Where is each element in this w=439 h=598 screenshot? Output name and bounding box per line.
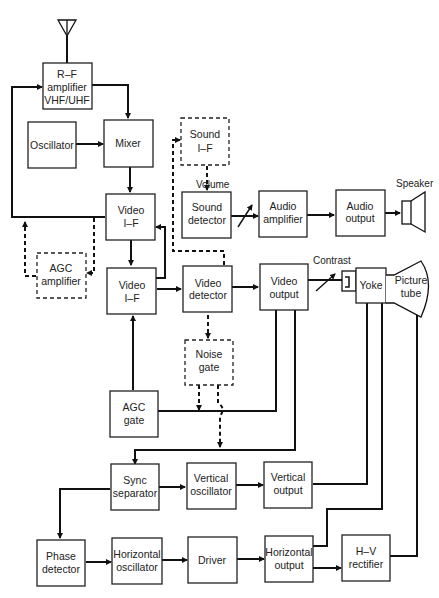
block-vertical-oscillator: Vertical oscillator (187, 463, 236, 509)
block-sync-separator: Sync separator (111, 464, 159, 510)
svg-text:Vertical: Vertical (271, 471, 305, 483)
svg-text:Oscillator: Oscillator (30, 139, 74, 151)
svg-text:detector: detector (189, 289, 227, 301)
block-agc-amplifier: AGC amplifier (37, 253, 86, 298)
speaker-label: Speaker (396, 178, 434, 189)
svg-text:gate: gate (124, 414, 145, 426)
contrast-control-icon (342, 271, 356, 291)
svg-text:Video: Video (271, 275, 298, 287)
picture-tube-icon: Picture tube (386, 261, 429, 317)
svg-text:Horizontal: Horizontal (265, 546, 312, 558)
svg-text:Driver: Driver (198, 554, 227, 566)
block-video-detector: Video detector (183, 266, 232, 312)
svg-text:output: output (274, 559, 303, 571)
svg-text:oscillator: oscillator (190, 485, 232, 497)
svg-text:detector: detector (188, 214, 226, 226)
svg-text:H–V: H–V (356, 545, 376, 557)
svg-text:Mixer: Mixer (115, 137, 141, 149)
svg-text:VHF/UHF: VHF/UHF (44, 94, 90, 106)
svg-text:rectifier: rectifier (349, 558, 384, 570)
svg-text:Video: Video (195, 277, 222, 289)
svg-text:I–F: I–F (197, 142, 212, 154)
svg-text:AGC: AGC (123, 401, 146, 413)
svg-text:amplifier: amplifier (41, 275, 81, 287)
block-video-if-2: Video I–F (107, 268, 156, 314)
svg-text:oscillator: oscillator (116, 561, 158, 573)
svg-text:Video: Video (118, 204, 145, 216)
svg-text:Video: Video (119, 279, 146, 291)
contrast-label: Contrast (313, 255, 351, 266)
svg-text:separator: separator (113, 487, 158, 499)
block-phase-detector: Phase detector (37, 540, 85, 586)
block-audio-amplifier: Audio amplifier (259, 191, 307, 237)
svg-text:AGC: AGC (50, 262, 73, 274)
svg-text:Picture: Picture (395, 274, 428, 286)
svg-text:Yoke: Yoke (360, 279, 383, 291)
antenna-icon (58, 20, 76, 63)
svg-text:output: output (345, 212, 374, 224)
speaker-icon (402, 192, 425, 232)
block-oscillator: Oscillator (28, 122, 76, 168)
block-sound-detector: Sound detector (182, 192, 231, 238)
block-agc-gate: AGC gate (110, 391, 158, 437)
svg-text:amplifier: amplifier (47, 81, 87, 93)
block-yoke: Yoke (356, 268, 386, 303)
svg-text:Sync: Sync (123, 474, 146, 486)
svg-text:Phase: Phase (46, 550, 76, 562)
block-hv-rectifier: H–V rectifier (342, 535, 390, 581)
svg-text:Sound: Sound (190, 128, 221, 140)
block-vertical-output: Vertical output (264, 462, 312, 508)
block-horizontal-output: Horizontal output (265, 536, 313, 582)
svg-text:Audio: Audio (347, 200, 374, 212)
block-driver: Driver (188, 537, 237, 583)
block-horizontal-oscillator: Horizontal oscillator (112, 538, 162, 584)
svg-text:tube: tube (401, 287, 422, 299)
svg-text:output: output (273, 484, 302, 496)
svg-text:R–F: R–F (57, 68, 77, 80)
svg-text:Horizontal: Horizontal (113, 548, 160, 560)
block-noise-gate: Noise gate (185, 340, 233, 385)
volume-label: Volume (196, 179, 230, 190)
svg-text:I–F: I–F (123, 217, 138, 229)
svg-text:I–F: I–F (124, 292, 139, 304)
svg-text:Sound: Sound (192, 201, 223, 213)
tv-receiver-block-diagram: R–F amplifier VHF/UHF Oscillator Mixer S… (0, 0, 439, 598)
svg-text:gate: gate (199, 361, 220, 373)
svg-text:detector: detector (42, 563, 80, 575)
block-sound-if: Sound I–F (181, 118, 229, 165)
svg-text:output: output (269, 288, 298, 300)
block-video-output: Video output (260, 264, 308, 310)
svg-text:amplifier: amplifier (263, 213, 303, 225)
block-mixer: Mixer (104, 120, 153, 167)
block-audio-output: Audio output (336, 190, 385, 236)
block-rf-amplifier: R–F amplifier VHF/UHF (43, 63, 92, 109)
svg-text:Vertical: Vertical (194, 472, 228, 484)
svg-text:Noise: Noise (196, 348, 223, 360)
svg-text:Audio: Audio (270, 200, 297, 212)
block-video-if-1: Video I–F (106, 194, 155, 240)
